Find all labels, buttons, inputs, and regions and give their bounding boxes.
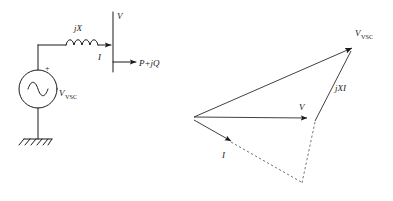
source-voltage-subscript: VSC <box>65 93 77 100</box>
current-phasor-extension <box>231 142 303 183</box>
construction-line <box>302 122 315 183</box>
current-phasor <box>194 120 231 141</box>
vsc-voltage-phasor <box>194 48 352 117</box>
phasor-current-label: I <box>221 150 226 160</box>
phasor-voltage-label: V <box>299 102 306 112</box>
equivalent-circuit: + V VSC jX I V P+jQ <box>19 11 160 145</box>
sine-wave-icon <box>28 82 48 96</box>
phasor-reactance-drop-label: jXI <box>334 83 347 93</box>
ground-icon <box>19 139 52 145</box>
polarity-plus-label: + <box>45 64 50 73</box>
inductor-symbol <box>66 40 98 45</box>
reactance-label: jX <box>73 23 83 33</box>
phasor-vsc-subscript: VSC <box>361 33 373 40</box>
bus-voltage-phasor <box>194 117 307 118</box>
figure-canvas: + V VSC jX I V P+jQ V VSC jXI V I <box>0 0 393 201</box>
phasor-diagram: V VSC jXI V I <box>194 28 373 183</box>
bus-voltage-label: V <box>117 11 124 21</box>
circuit-current-label: I <box>97 52 102 62</box>
power-label: P+jQ <box>138 58 160 68</box>
